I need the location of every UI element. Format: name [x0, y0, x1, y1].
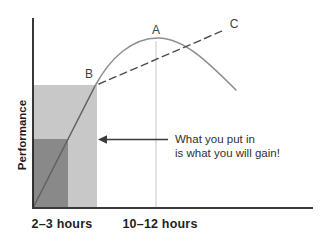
x-tick-10-12-hours: 10–12 hours [122, 217, 197, 231]
annotation-text-line2: is what you will gain! [175, 147, 280, 159]
expectation-dashed-line [99, 31, 222, 84]
point-label-a: A [152, 23, 160, 37]
annotation-arrow-head-icon [98, 135, 107, 143]
performance-curve-arc [95, 38, 236, 90]
x-tick-2-3-hours: 2–3 hours [32, 217, 93, 231]
point-label-c: C [230, 17, 239, 31]
y-axis-label: Performance [16, 100, 28, 170]
chart-canvas: A B C Performance 2–3 hours 10–12 hours … [0, 0, 333, 246]
performance-vs-hours-diagram: A B C Performance 2–3 hours 10–12 hours … [0, 0, 333, 246]
point-label-b: B [85, 67, 93, 81]
annotation-text-line1: What you put in [175, 133, 255, 145]
